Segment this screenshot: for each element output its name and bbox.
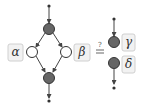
output-terminal: [47, 99, 50, 102]
edge-split-to-alpha: [36, 33, 45, 47]
merge-node: [44, 73, 55, 84]
split-node: [44, 24, 55, 35]
delta-node: [109, 58, 120, 69]
gamma-label: γ: [125, 35, 133, 49]
gamma-node: [109, 37, 120, 48]
edge-beta-to-merge: [53, 56, 62, 72]
beta-label: β: [78, 45, 86, 59]
left-diagram: α β: [8, 4, 90, 102]
edge-split-to-beta: [53, 33, 62, 47]
diagram-canvas: α β ? γ δ: [0, 0, 144, 111]
equivalence-question: ?: [96, 41, 104, 53]
alpha-label: α: [11, 45, 19, 59]
alpha-node: [27, 47, 38, 58]
delta-label: δ: [125, 57, 132, 71]
right-output-terminal: [112, 86, 115, 89]
edge-alpha-to-merge: [36, 56, 45, 72]
right-diagram: γ δ: [109, 17, 136, 89]
question-mark: ?: [98, 41, 102, 49]
beta-node: [61, 47, 72, 58]
